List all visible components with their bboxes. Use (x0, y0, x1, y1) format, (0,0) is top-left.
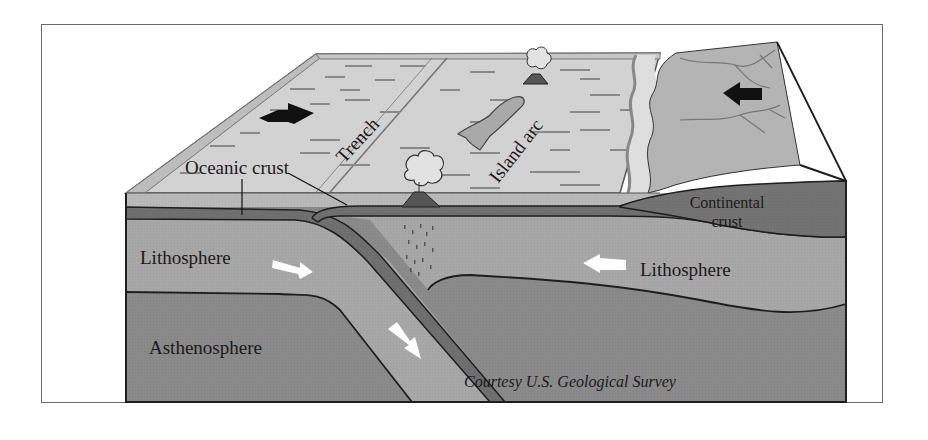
label-continental-crust: Continental (690, 194, 765, 211)
label-lithosphere-left: Lithosphere (140, 247, 231, 268)
subduction-zone-diagram: Oceanic crust Trench Island arc Continen… (0, 0, 928, 440)
credit-text: Courtesy U.S. Geological Survey (464, 373, 677, 391)
label-continental-crust-line2: crust (711, 213, 743, 230)
label-lithosphere-right: Lithosphere (640, 259, 731, 280)
label-asthenosphere: Asthenosphere (149, 337, 262, 358)
continent-top (647, 42, 800, 193)
label-oceanic-crust: Oceanic crust (185, 157, 290, 178)
top-surface (126, 53, 660, 206)
